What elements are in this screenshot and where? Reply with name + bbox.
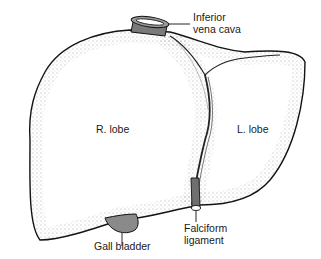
label-left-lobe: L. lobe: [237, 123, 269, 135]
inferior-vena-cava: [130, 14, 190, 36]
label-right-lobe: R. lobe: [96, 123, 129, 135]
label-gall-bladder: Gall bladder: [94, 240, 151, 252]
liver-diagram: Inferior vena cava R. lobe L. lobe Gall …: [0, 0, 321, 259]
label-inferior-vena-cava: Inferior vena cava: [193, 11, 241, 35]
label-falciform-ligament: Falciform ligament: [184, 222, 227, 246]
falciform-ligament: [191, 178, 201, 222]
liver-body: [30, 30, 305, 240]
